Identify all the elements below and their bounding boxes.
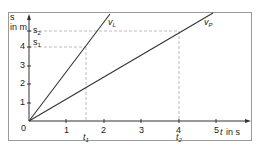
y-axis-arrow-icon bbox=[27, 14, 31, 20]
series-vP-line bbox=[29, 13, 213, 121]
t1-label: t1 bbox=[83, 133, 89, 143]
s1-label: s1 bbox=[33, 38, 41, 48]
x-axis-title: in s bbox=[226, 128, 240, 137]
y-axis-title-line2: in m bbox=[10, 23, 27, 32]
x-tick-3: 3 bbox=[139, 126, 144, 135]
y-tick-3: 3 bbox=[20, 61, 25, 70]
y-tick-1: 1 bbox=[20, 98, 25, 107]
series-vL-line bbox=[29, 14, 110, 121]
x-tick-5: 5 bbox=[214, 126, 219, 135]
distance-time-chart: s in m t in s 0 1 2 3 4 5 1 2 3 4 s2 s1 … bbox=[0, 0, 258, 151]
t2-label: t2 bbox=[176, 133, 182, 143]
s2-label: s2 bbox=[33, 26, 41, 36]
x-tick-1: 1 bbox=[64, 126, 69, 135]
y-axis-title-line1: s bbox=[10, 13, 15, 22]
vP-label: vP bbox=[204, 18, 213, 28]
x-tick-2: 2 bbox=[101, 126, 106, 135]
vL-label: vL bbox=[108, 18, 116, 28]
y-tick-4: 4 bbox=[20, 42, 25, 51]
axes bbox=[27, 16, 248, 123]
y-tick-2: 2 bbox=[20, 79, 25, 88]
x-axis-title-var: t bbox=[220, 128, 223, 137]
x-axis-arrow-icon bbox=[245, 119, 251, 123]
origin-label: 0 bbox=[21, 124, 26, 133]
